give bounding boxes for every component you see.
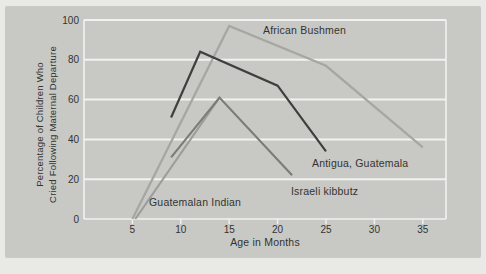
separation-distress-chart: 5101520253035020406080100African Bushmen… — [0, 0, 486, 274]
series-label-israeli-kibbutz: Israeli kibbutz — [291, 185, 358, 197]
tick-label-y-100: 100 — [62, 15, 79, 26]
series-label-african-bushmen: African Bushmen — [263, 24, 346, 36]
series-line-african-bushmen — [132, 26, 422, 219]
x-axis-title: Age in Months — [195, 236, 335, 248]
tick-label-y-20: 20 — [68, 174, 80, 185]
tick-label-y-80: 80 — [68, 54, 80, 65]
tick-label-y-0: 0 — [73, 214, 79, 225]
tick-label-x-10: 10 — [175, 224, 187, 235]
tick-label-x-15: 15 — [224, 224, 236, 235]
y-axis-title-line2: Cried Following Maternal Departure — [46, 5, 59, 245]
y-axis-title-line1: Percentage of Children Who — [34, 5, 47, 245]
tick-label-x-20: 20 — [272, 224, 284, 235]
tick-label-y-40: 40 — [68, 134, 80, 145]
tick-label-x-5: 5 — [130, 224, 136, 235]
tick-label-x-35: 35 — [417, 224, 429, 235]
series-label-guatemalan-indian: Guatemalan Indian — [149, 196, 241, 208]
tick-label-y-60: 60 — [68, 94, 80, 105]
tick-label-x-30: 30 — [369, 224, 381, 235]
tick-label-x-25: 25 — [320, 224, 332, 235]
series-line-israeli-kibbutz — [171, 98, 292, 176]
series-line-antigua-guatemala — [171, 52, 326, 152]
screenshot-root: { "figure": { "panel_bg": "#c8c9c5", "pa… — [0, 0, 486, 274]
y-axis-title: Percentage of Children Who Cried Followi… — [34, 5, 59, 245]
series-label-antigua-guatemala: Antigua, Guatemala — [312, 157, 408, 169]
